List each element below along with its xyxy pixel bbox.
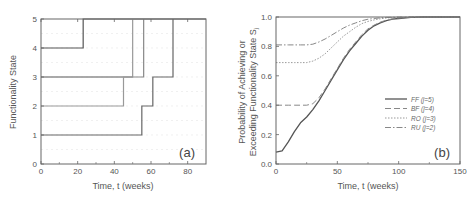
x-tick-label: 80 — [183, 167, 192, 176]
panel-a-xlabel: Time, t (weeks) — [92, 181, 153, 191]
y-tick-label: 0.2 — [261, 131, 273, 140]
panel-b-ylabel-line2-text: Exceeding Functionality State S — [248, 29, 258, 156]
x-tick-label: 60 — [147, 167, 156, 176]
legend-label: BF (j=4) — [411, 105, 434, 113]
y-tick-label: 2 — [33, 102, 38, 111]
x-tick-label: 50 — [333, 167, 342, 176]
panel-a-label: (a) — [179, 145, 195, 160]
panel-b-label: (b) — [434, 145, 450, 160]
y-tick-label: 0.8 — [261, 42, 273, 51]
y-tick-label: 1.0 — [261, 13, 273, 22]
panel-b-ylabel: Probability of Achieving or Exceeding Fu… — [237, 28, 259, 156]
y-tick-label: 0.4 — [261, 101, 273, 110]
panel-b-ylabel-line1: Probability of Achieving or — [237, 40, 247, 144]
panel-b-ylabel-subscript: j — [253, 28, 259, 30]
panel-b-legend: FF (j=5)BF (j=4)RO (j=3)RU (j=2) — [385, 96, 436, 133]
figure: 020406080012345 Time, t (weeks) Function… — [0, 0, 472, 202]
y-tick-label: 0.6 — [261, 72, 273, 81]
legend-label: RU (j=2) — [411, 124, 435, 132]
y-tick-label: 1 — [33, 131, 38, 140]
panel-b-xlabel: Time, t (weeks) — [337, 181, 398, 191]
panel-b-frame — [276, 17, 460, 164]
panel-b: 0501001500.00.20.40.60.81.0 Time, t (wee… — [237, 13, 467, 191]
y-tick-label: 3 — [33, 73, 38, 82]
x-tick-label: 150 — [453, 167, 467, 176]
panel-a: 020406080012345 Time, t (weeks) Function… — [8, 15, 206, 191]
legend-label: FF (j=5) — [411, 96, 434, 104]
series-RO — [276, 17, 460, 63]
y-tick-label: 0 — [33, 160, 38, 169]
y-tick-label: 5 — [33, 15, 38, 24]
panel-b-series — [276, 17, 460, 152]
panel-b-ylabel-line2: Exceeding Functionality State Sj — [248, 28, 259, 156]
series-FF — [276, 17, 460, 152]
panel-a-ylabel: Functionality State — [8, 55, 18, 129]
y-tick-label: 4 — [33, 44, 38, 53]
x-tick-label: 0 — [39, 167, 44, 176]
x-tick-label: 20 — [73, 167, 82, 176]
x-tick-label: 40 — [110, 167, 119, 176]
x-tick-label: 100 — [392, 167, 406, 176]
panel-a-ticks: 020406080012345 — [33, 15, 193, 176]
y-tick-label: 0.0 — [261, 160, 273, 169]
legend-label: RO (j=3) — [411, 115, 436, 123]
x-tick-label: 0 — [274, 167, 279, 176]
